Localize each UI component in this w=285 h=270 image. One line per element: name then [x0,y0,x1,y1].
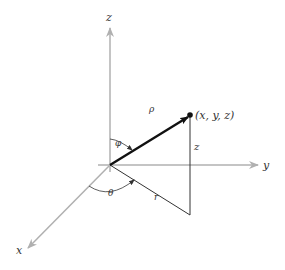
r-segment [110,165,190,215]
y-axis-label: y [262,159,270,172]
spherical-coordinates-diagram: z y x (x, y, z) ρ z r φ θ [0,0,285,270]
rho-label: ρ [148,104,155,114]
rho-vector [110,117,188,165]
theta-label: θ [108,188,114,198]
point-xyz [187,112,193,118]
x-axis [28,165,110,248]
z-axis-label: z [105,11,112,24]
phi-label: φ [115,138,122,148]
z-segment-label: z [193,141,200,152]
point-label: (x, y, z) [195,109,234,122]
r-label: r [154,192,159,202]
x-axis-label: x [16,244,23,257]
